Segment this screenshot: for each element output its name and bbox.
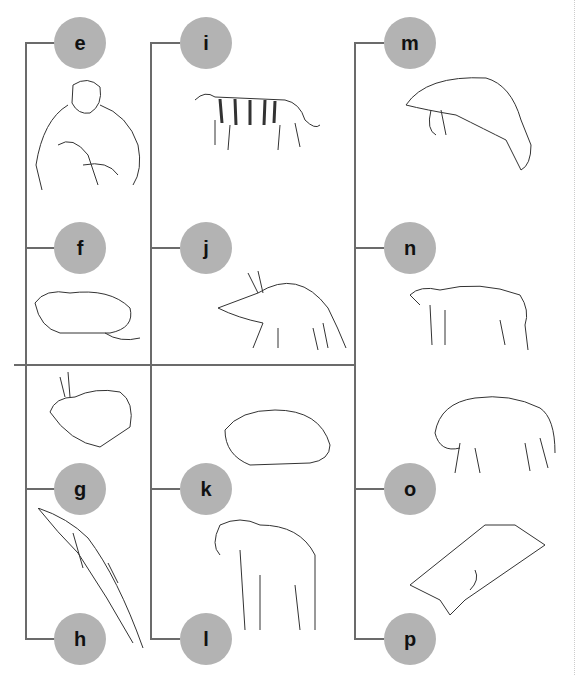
connector-o bbox=[354, 488, 384, 490]
manatee-illustration bbox=[396, 70, 536, 175]
horizontal-divider bbox=[14, 364, 356, 366]
node-p: p bbox=[384, 613, 436, 665]
connector-f bbox=[25, 247, 55, 249]
node-f: f bbox=[54, 222, 106, 274]
aardvark-illustration bbox=[218, 268, 348, 358]
rabbit-illustration bbox=[40, 372, 140, 452]
middle-vertical-line bbox=[150, 42, 152, 640]
node-j: j bbox=[180, 222, 232, 274]
node-k: k bbox=[180, 463, 232, 515]
node-m: m bbox=[384, 17, 436, 69]
dolphin-illustration bbox=[38, 508, 148, 653]
chimpanzee-illustration bbox=[28, 75, 148, 195]
connector-g bbox=[25, 488, 55, 490]
right-vertical-line bbox=[354, 42, 356, 640]
node-n: n bbox=[384, 222, 436, 274]
page-edge bbox=[574, 0, 578, 675]
connector-n bbox=[354, 247, 384, 249]
connector-e bbox=[25, 42, 55, 44]
left-vertical-line bbox=[25, 42, 27, 640]
connector-l bbox=[150, 638, 180, 640]
connector-j bbox=[150, 247, 180, 249]
node-o: o bbox=[384, 463, 436, 515]
bison-illustration bbox=[430, 393, 565, 478]
flying-lemur-illustration bbox=[405, 520, 550, 615]
rodent-illustration bbox=[30, 283, 145, 353]
connector-k bbox=[150, 488, 180, 490]
node-i: i bbox=[180, 17, 232, 69]
tiger-illustration bbox=[190, 85, 325, 155]
elephant-illustration bbox=[210, 515, 320, 635]
tapir-illustration bbox=[410, 285, 535, 355]
hyrax-illustration bbox=[220, 405, 335, 470]
node-e: e bbox=[54, 17, 106, 69]
connector-m bbox=[354, 42, 384, 44]
connector-p bbox=[354, 638, 384, 640]
connector-i bbox=[150, 42, 180, 44]
